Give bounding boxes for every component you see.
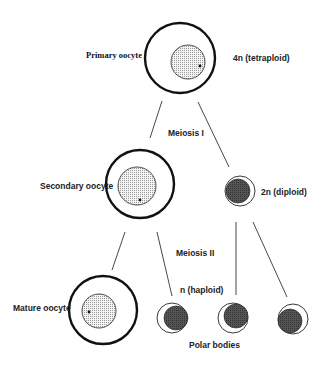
nucleus — [118, 167, 156, 205]
label-polar-bodies: Polar bodies — [189, 340, 240, 350]
polar-body-3 — [218, 303, 248, 333]
polar-body-nucleus — [164, 306, 188, 330]
label-mature-oocyte: Mature oocyte — [13, 303, 71, 313]
label-primary-oocyte: Primary oocyte — [86, 50, 142, 60]
nucleus — [171, 45, 205, 79]
polar-body-4 — [278, 304, 308, 334]
label-meiosis-2: Meiosis II — [176, 248, 214, 258]
oogenesis-diagram: Primary oocyte 4n (tetraploid) Meiosis I… — [0, 0, 324, 368]
primary-oocyte — [145, 23, 215, 93]
label-diploid: 2n (diploid) — [261, 187, 307, 197]
nucleolus — [199, 65, 202, 68]
edge-primary-to-secondary — [150, 101, 162, 138]
mature-oocyte — [69, 276, 137, 344]
polar-body-1 — [225, 176, 255, 206]
secondary-oocyte — [106, 150, 174, 218]
nucleolus — [88, 311, 91, 314]
edge-polar-body-1-to-polar-body-4 — [253, 222, 287, 297]
label-tetraploid: 4n (tetraploid) — [233, 53, 290, 63]
edge-secondary-to-polar-body-2 — [157, 232, 172, 296]
nucleolus — [139, 199, 142, 202]
polar-body-nucleus — [226, 179, 250, 203]
edge-secondary-to-mature — [112, 232, 125, 270]
label-haploid: n (haploid) — [180, 285, 224, 295]
label-secondary-oocyte: Secondary oocyte — [40, 181, 113, 191]
polar-body-nucleus — [224, 304, 248, 328]
label-meiosis-1: Meiosis I — [168, 128, 204, 138]
polar-body-nucleus — [278, 309, 302, 333]
nucleus — [82, 294, 116, 328]
polar-body-2 — [157, 303, 188, 333]
